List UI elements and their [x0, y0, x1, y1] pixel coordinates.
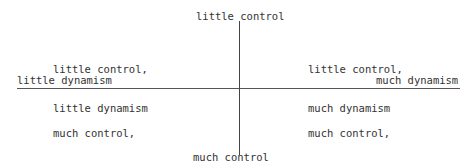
- quadrant-line: little dynamism: [53, 166, 148, 167]
- quadrant-line: much dynamism: [308, 166, 390, 167]
- control-dynamism-matrix: little control much control little dynam…: [0, 0, 475, 167]
- axis-label-top: little control: [196, 10, 285, 23]
- quadrant-line: much control,: [308, 127, 390, 140]
- axis-label-bottom: much control: [193, 151, 269, 164]
- quadrant-line: little control,: [53, 63, 148, 76]
- quadrant-bottom-left: much control, little dynamism: [53, 101, 148, 167]
- vertical-axis-control: [239, 21, 240, 155]
- quadrant-line: much control,: [53, 127, 148, 140]
- quadrant-line: little control,: [308, 63, 403, 76]
- quadrant-bottom-right: much control, much dynamism: [308, 101, 390, 167]
